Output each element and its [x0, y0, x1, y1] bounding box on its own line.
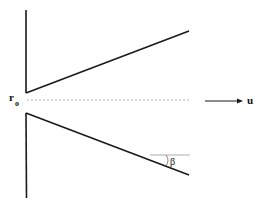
lower-diverging-wall: [26, 113, 189, 175]
radius-label: r: [9, 91, 14, 103]
diffuser-diagram: r o u β: [0, 0, 262, 206]
lower-vertical-wall: [26, 113, 27, 198]
velocity-arrow-head: [237, 99, 243, 104]
angle-beta-label: β: [170, 156, 175, 167]
angle-arc: [166, 155, 168, 166]
velocity-label: u: [247, 94, 253, 106]
radius-subscript-label: o: [15, 99, 19, 108]
upper-diverging-wall: [26, 31, 189, 93]
